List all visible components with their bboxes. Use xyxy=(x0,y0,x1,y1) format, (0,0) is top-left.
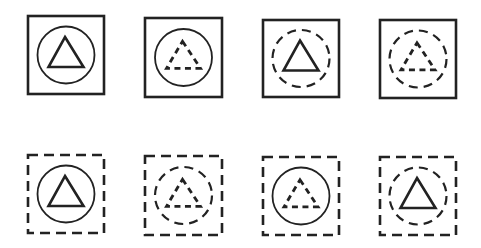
square-solid xyxy=(380,20,456,98)
figure-item-1-3 xyxy=(263,20,339,97)
figure-item-2-2 xyxy=(145,156,222,235)
figure-item-2-1 xyxy=(28,155,104,233)
figure-item-1-4 xyxy=(380,20,456,98)
square-dashed xyxy=(380,157,456,235)
triangle-solid xyxy=(49,37,84,67)
triangle-solid xyxy=(284,41,319,71)
square-solid xyxy=(263,20,339,97)
nested-shapes-diagram xyxy=(0,0,481,248)
figure-item-1-2 xyxy=(145,18,222,97)
triangle-dashed xyxy=(167,41,201,68)
square-dashed xyxy=(263,157,339,235)
figure-item-1-1 xyxy=(28,16,104,94)
square-solid xyxy=(28,16,104,94)
square-dashed xyxy=(28,155,104,233)
square-dashed xyxy=(145,156,222,235)
circle-dashed xyxy=(390,168,447,225)
circle-dashed xyxy=(390,31,447,88)
triangle-solid xyxy=(401,178,436,208)
triangle-solid xyxy=(49,176,84,206)
circle-solid xyxy=(38,166,95,223)
circle-dashed xyxy=(273,30,330,87)
figure-item-2-4 xyxy=(380,157,456,235)
figure-item-2-3 xyxy=(263,157,339,235)
circle-solid xyxy=(155,29,212,86)
circle-dashed xyxy=(155,167,212,224)
triangle-dashed xyxy=(167,179,201,206)
triangle-dashed xyxy=(284,180,318,207)
circle-solid xyxy=(273,168,330,225)
circle-solid xyxy=(38,27,95,84)
triangle-dashed xyxy=(401,43,435,70)
